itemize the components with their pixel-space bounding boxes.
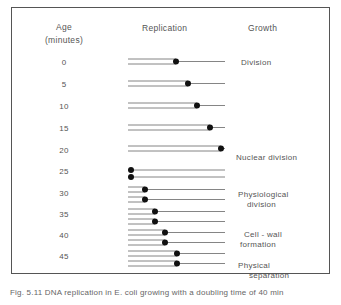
replication-fork-icon <box>152 219 158 225</box>
replication-fork-icon <box>185 81 191 87</box>
replication-fork-icon <box>152 209 158 215</box>
replication-fork-icon <box>162 240 168 246</box>
figure-caption: Fig. 5.11 DNA replication in E. coli gro… <box>10 288 284 297</box>
replication-diagram <box>0 0 341 305</box>
replication-fork-icon <box>128 167 134 173</box>
replication-fork-icon <box>174 261 180 267</box>
replication-fork-icon <box>194 103 200 109</box>
replication-fork-icon <box>162 230 168 236</box>
replication-fork-icon <box>128 174 134 180</box>
replication-fork-icon <box>142 187 148 193</box>
replication-fork-icon <box>142 197 148 203</box>
replication-fork-icon <box>174 251 180 257</box>
replication-fork-icon <box>218 146 224 152</box>
replication-fork-icon <box>173 59 179 65</box>
replication-fork-icon <box>207 125 213 131</box>
